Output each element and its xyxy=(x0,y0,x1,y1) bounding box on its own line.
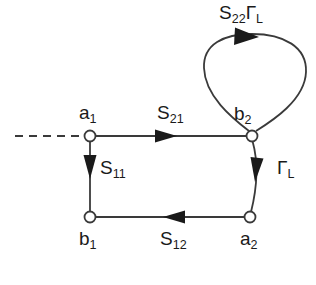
signal-flow-graph-diagram: a1 b2 b1 a2 S21 S11 S12 ΓL S22ΓL xyxy=(0,0,316,285)
edge-label-s11: S11 xyxy=(100,158,126,180)
edge-label-gamma-l: ΓL xyxy=(277,158,294,180)
edge-s12-arrowhead xyxy=(163,211,185,224)
edge-label-s21: S21 xyxy=(157,103,184,125)
node-a2 xyxy=(245,212,256,223)
node-b2 xyxy=(247,131,258,142)
edge-s11-arrowhead xyxy=(84,155,97,179)
node-b1 xyxy=(85,212,96,223)
edge-self-loop-arrowhead xyxy=(234,28,259,46)
flow-graph-canvas xyxy=(0,0,316,285)
node-label-a1: a1 xyxy=(79,103,97,125)
edge-label-s22-gamma-l: S22ΓL xyxy=(219,3,263,25)
edge-label-s12: S12 xyxy=(160,229,187,251)
edge-self-loop-line xyxy=(204,34,306,131)
edge-s21-arrowhead xyxy=(155,130,177,143)
node-label-b1: b1 xyxy=(79,229,97,251)
node-label-a2: a2 xyxy=(240,229,258,251)
node-label-b2: b2 xyxy=(234,104,252,126)
node-a1 xyxy=(85,131,96,142)
